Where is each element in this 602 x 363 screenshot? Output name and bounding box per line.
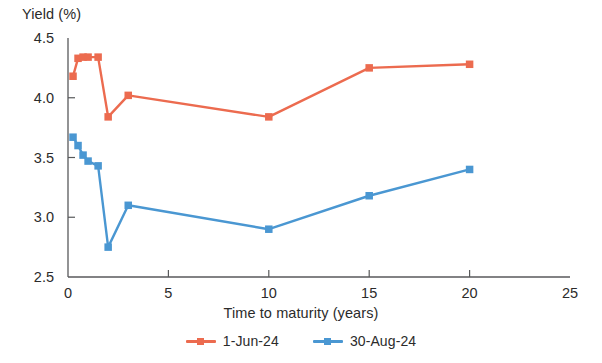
legend-label: 1-Jun-24 (223, 333, 279, 349)
data-point-marker (74, 142, 82, 150)
legend-swatch-icon (186, 335, 216, 347)
x-axis-title: Time to maturity (years) (0, 305, 602, 321)
data-point-marker (265, 113, 273, 121)
legend-entry[interactable]: 30-Aug-24 (313, 333, 416, 349)
axis-tick-marks (68, 98, 470, 277)
series-line (73, 57, 470, 117)
legend-label: 30-Aug-24 (350, 333, 416, 349)
chart-legend: 1-Jun-2430-Aug-24 (0, 333, 602, 349)
data-point-marker (104, 113, 112, 121)
data-point-marker (94, 162, 102, 170)
data-point-marker (69, 133, 77, 141)
axis-lines (68, 38, 570, 277)
data-point-marker (69, 72, 77, 80)
data-point-marker (94, 53, 102, 61)
data-point-marker (84, 157, 92, 165)
series-30-Aug-24 (69, 133, 473, 250)
data-series-layer (69, 53, 473, 251)
data-point-marker (466, 166, 474, 174)
data-point-marker (124, 202, 131, 210)
data-point-marker (466, 61, 474, 69)
legend-swatch-icon (313, 335, 343, 347)
series-1-Jun-24 (69, 53, 473, 120)
data-point-marker (365, 64, 373, 72)
yield-curve-chart: Yield (%) 2.53.03.54.04.5 0510152025 Tim… (0, 0, 602, 363)
data-point-marker (365, 192, 373, 200)
legend-entry[interactable]: 1-Jun-24 (186, 333, 279, 349)
data-point-marker (124, 92, 131, 100)
data-point-marker (265, 225, 273, 233)
data-point-marker (84, 53, 92, 61)
data-point-marker (104, 243, 112, 251)
